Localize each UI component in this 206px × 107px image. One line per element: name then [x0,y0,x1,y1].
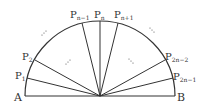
label-P2n-1: P2n−1 [173,71,196,83]
radius-P2n-2 [100,60,165,96]
label-P1: P1 [15,70,26,82]
label-P2n-2: P2n−2 [165,51,188,63]
semicircle-diagram: A B P1 P2 Pn−1 Pn Pn+1 P2n−2 P2n−1 [0,0,206,107]
radii [27,21,173,96]
radius-Pn-1 [82,23,100,96]
radius-P2 [35,60,100,96]
label-P2: P2 [22,51,33,63]
radius-P2n-1 [100,78,173,96]
label-Pn-1: Pn−1 [70,9,89,21]
label-A: A [13,91,23,104]
radius-P1 [27,78,100,96]
radius-Pn+1 [100,23,118,96]
label-Pn: Pn [94,9,105,21]
label-Pn+1: Pn+1 [114,9,133,21]
label-B: B [177,91,185,104]
